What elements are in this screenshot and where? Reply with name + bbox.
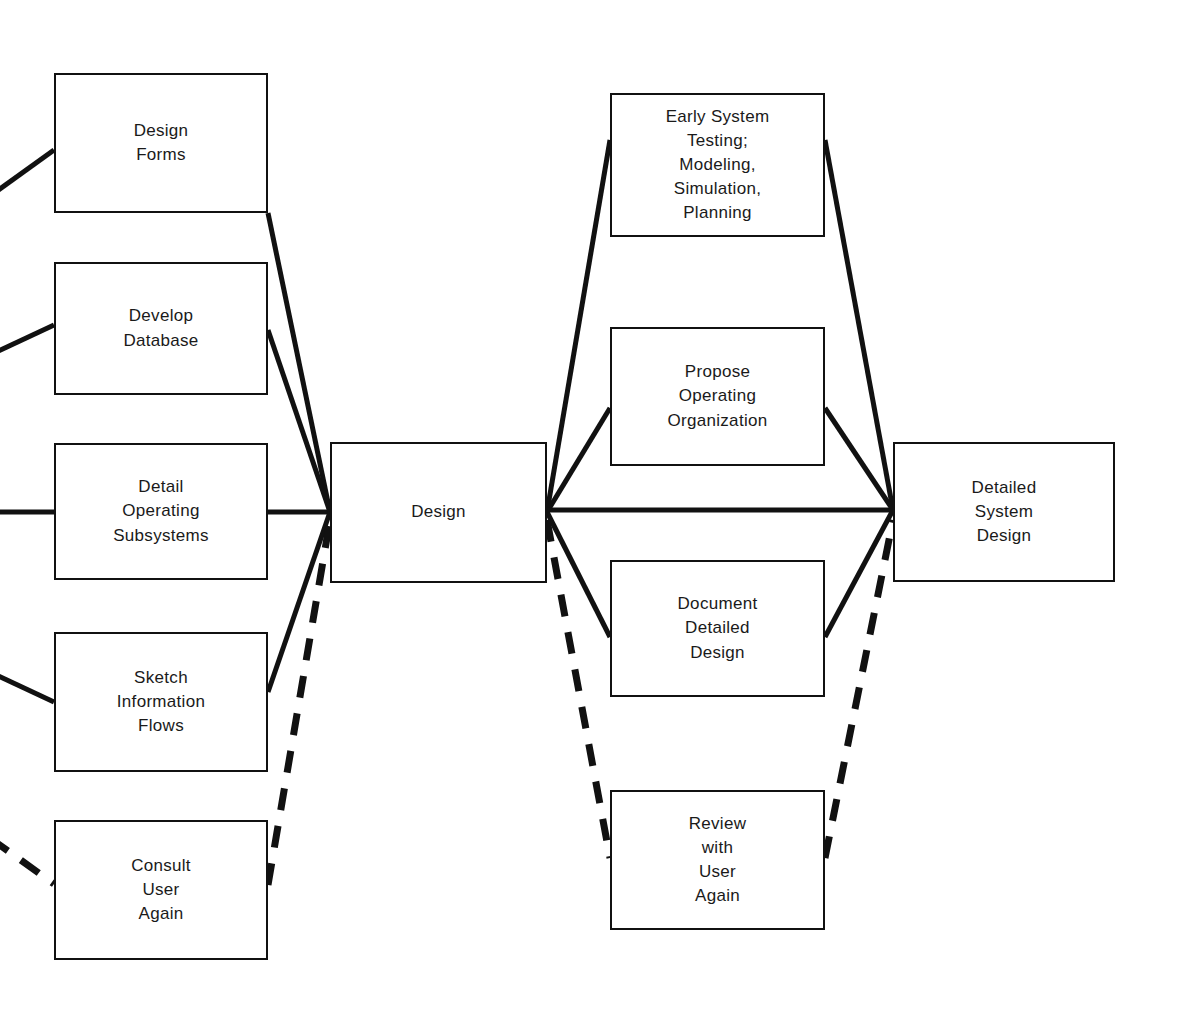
node-review-with-user-again[interactable]: Review with User Again	[610, 790, 825, 930]
node-sketch-information-flows[interactable]: Sketch Information Flows	[54, 632, 268, 772]
node-label: Develop Database	[123, 304, 198, 352]
node-label: Consult User Again	[131, 854, 191, 926]
node-label: Detailed System Design	[972, 476, 1037, 548]
node-detail-operating-subsystems[interactable]: Detail Operating Subsystems	[54, 443, 268, 580]
node-propose-operating-organization[interactable]: Propose Operating Organization	[610, 327, 825, 466]
edge-in-sketch-information-flows	[0, 672, 54, 702]
edge-in-develop-database	[0, 325, 54, 355]
node-label: Review with User Again	[689, 812, 747, 909]
node-label: Design	[411, 500, 466, 524]
edge-in-design-forms	[0, 150, 54, 196]
edge-document-detailed-design-to-detailed-system-design	[825, 510, 893, 637]
node-document-detailed-design[interactable]: Document Detailed Design	[610, 560, 825, 697]
node-label: Propose Operating Organization	[668, 360, 768, 432]
node-early-system-testing[interactable]: Early System Testing; Modeling, Simulati…	[610, 93, 825, 237]
node-label: Sketch Information Flows	[117, 666, 205, 738]
node-label: Design Forms	[134, 119, 189, 167]
edge-consult-user-again-to-design	[268, 520, 330, 885]
node-develop-database[interactable]: Develop Database	[54, 262, 268, 395]
edge-sketch-information-flows-to-design	[268, 512, 330, 692]
node-design[interactable]: Design	[330, 442, 547, 583]
edge-in-consult-user-again	[0, 838, 54, 884]
node-design-forms[interactable]: Design Forms	[54, 73, 268, 213]
node-label: Document Detailed Design	[678, 592, 758, 664]
node-label: Early System Testing; Modeling, Simulati…	[666, 105, 770, 226]
node-detailed-system-design[interactable]: Detailed System Design	[893, 442, 1115, 582]
node-label: Detail Operating Subsystems	[113, 475, 209, 547]
node-consult-user-again[interactable]: Consult User Again	[54, 820, 268, 960]
diagram-canvas: Design Forms Develop Database Detail Ope…	[0, 0, 1181, 1020]
